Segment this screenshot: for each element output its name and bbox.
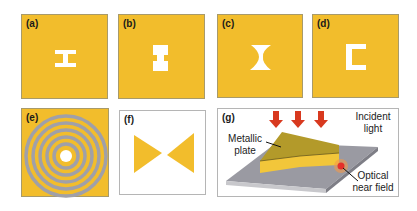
- panel-g: (g) Incident light Metallic plate Optica…: [217, 108, 399, 197]
- incident-light-line2: light: [364, 123, 382, 134]
- panel-a: (a): [21, 14, 108, 99]
- vertical-h-aperture-icon: [119, 15, 206, 100]
- h-aperture-icon: [22, 15, 109, 100]
- metallic-plate-line2: plate: [234, 145, 256, 156]
- incident-light-line1: Incident: [355, 111, 390, 122]
- near-field-line2: near field: [352, 182, 393, 193]
- panel-b: (b): [118, 14, 205, 99]
- metallic-plate-label: Metallic plate: [222, 133, 268, 157]
- bowtie-aperture-icon: [218, 15, 304, 99]
- c-aperture-icon: [313, 15, 400, 99]
- panel-d: (d): [312, 14, 399, 98]
- panel-e: (e): [21, 108, 109, 197]
- incident-light-label: Incident light: [348, 111, 398, 135]
- panel-g-label: (g): [222, 112, 235, 123]
- metallic-plate-line1: Metallic: [228, 133, 262, 144]
- panel-f: (f): [119, 110, 206, 195]
- bowtie-antenna-icon: [120, 111, 207, 196]
- panel-c: (c): [217, 14, 303, 98]
- near-field-line1: Optical: [357, 170, 388, 181]
- optical-near-field-label: Optical near field: [346, 170, 400, 194]
- panel-e-label: (e): [26, 112, 38, 123]
